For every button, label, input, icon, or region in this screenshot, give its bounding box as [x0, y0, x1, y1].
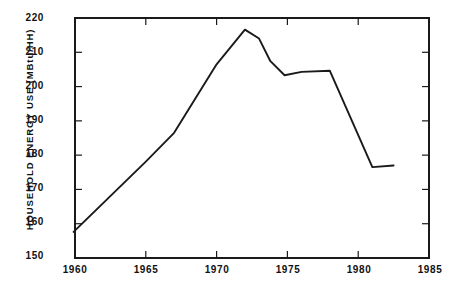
plot-area	[0, 0, 460, 297]
chart-figure: HOUSEHOLD ENERGY USE (MBtu/HH) 220 210 2…	[0, 0, 460, 297]
plot-frame	[75, 18, 429, 258]
data-series-line	[74, 30, 394, 232]
x-tick-marks	[146, 18, 358, 258]
y-tick-marks	[75, 52, 429, 223]
